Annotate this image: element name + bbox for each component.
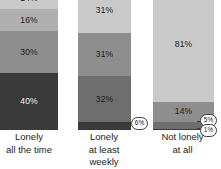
bar-segment[interactable]: 31%: [78, 0, 131, 33]
category-label-line2: all the time: [0, 144, 58, 157]
bar-segment-value: 30%: [20, 48, 37, 57]
bar-segment[interactable]: 81%: [153, 0, 214, 102]
bar-segment[interactable]: 30%: [0, 31, 58, 73]
category-label-line1: Lonely: [0, 131, 58, 144]
bar-segment-value: 31%: [96, 6, 113, 15]
bar-segment[interactable]: 16%: [0, 9, 58, 32]
bar-segment-value: 14%: [175, 107, 192, 116]
chart-plot-area: 40%30%16%14% 6%32%31%31% 1%5%14%81% 6%5%…: [0, 0, 221, 130]
bar-segment[interactable]: 31%: [78, 33, 131, 77]
callout-value: 6%: [135, 120, 144, 127]
category-label-line1: Not lonely: [152, 131, 213, 144]
bar-segment-value: 81%: [175, 40, 192, 49]
bar-lonely-at-least-weekly[interactable]: 6%32%31%31%: [78, 0, 131, 130]
bar-segment-value: 16%: [20, 16, 37, 25]
category-axis-labels: Lonely all the time Lonely at least week…: [0, 131, 221, 169]
bar-segment-value: 40%: [20, 97, 37, 106]
bar-segment-value: 14%: [20, 0, 37, 3]
bar-segment-value: 32%: [96, 95, 113, 104]
category-label-line2: at least weekly: [73, 144, 135, 169]
bar-lonely-all-the-time[interactable]: 40%30%16%14%: [0, 0, 58, 130]
bar-segment[interactable]: 40%: [0, 73, 58, 130]
bar-segment[interactable]: 32%: [78, 76, 131, 121]
bar-segment-value-callout: 6%: [131, 117, 148, 130]
bar-segment[interactable]: 14%: [0, 0, 58, 9]
category-label-line1: Lonely: [73, 131, 135, 144]
bar-segment[interactable]: 6%: [78, 122, 131, 130]
bar-segment-value: 31%: [96, 50, 113, 59]
callout-value: 5%: [204, 117, 213, 124]
bar-not-lonely-at-all[interactable]: 1%5%14%81%: [153, 0, 214, 130]
category-label-line2: at all: [152, 144, 213, 157]
category-label-lonely-at-least-weekly: Lonely at least weekly: [73, 131, 135, 169]
category-label-not-lonely-at-all: Not lonely at all: [152, 131, 213, 156]
category-label-lonely-all-the-time: Lonely all the time: [0, 131, 58, 156]
stacked-bar-chart: 40%30%16%14% 6%32%31%31% 1%5%14%81% 6%5%…: [0, 0, 221, 169]
